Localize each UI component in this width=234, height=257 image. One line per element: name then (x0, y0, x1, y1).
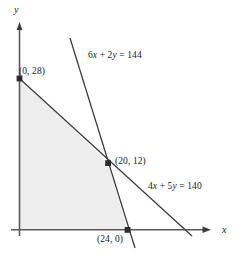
linear-programming-plot (0, 0, 234, 257)
y-axis-arrowhead (17, 22, 23, 30)
eq1-plus: + (97, 50, 107, 60)
x-axis-arrowhead (203, 227, 212, 233)
eq1-constant: 144 (127, 50, 142, 60)
vertex-label-20-12: (20, 12) (115, 157, 146, 167)
eq2-constant: 140 (187, 181, 202, 191)
y-axis-label: y (14, 5, 18, 15)
x-axis-label: x (222, 225, 226, 235)
eq2-equals: = (177, 181, 187, 191)
vertex-label-0-28: (0, 28) (19, 67, 45, 77)
vertex-label-24-0: (24, 0) (97, 235, 123, 245)
vertex-marker-20-12 (105, 160, 111, 166)
feasible-region-shading (20, 79, 128, 230)
equation-label-6x-2y-144: 6x + 2y = 144 (88, 51, 142, 61)
vertex-marker-24-0 (125, 227, 131, 233)
eq1-equals: = (117, 50, 127, 60)
equation-label-4x-5y-140: 4x + 5y = 140 (148, 182, 202, 192)
eq2-plus: + (157, 181, 167, 191)
figure-canvas: y x 6x + 2y = 144 4x + 5y = 140 (0, 28) … (0, 0, 234, 257)
